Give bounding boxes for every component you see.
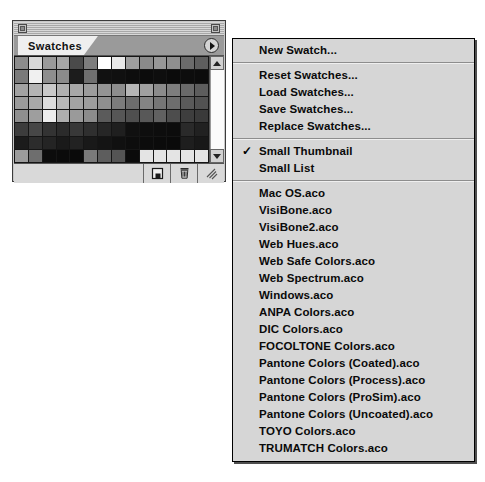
swatch-cell[interactable] <box>140 97 153 109</box>
swatch-cell[interactable] <box>154 70 167 82</box>
swatch-cell[interactable] <box>98 150 111 162</box>
menu-item[interactable]: FOCOLTONE Colors.aco <box>233 338 474 355</box>
resize-grip-icon[interactable] <box>197 164 224 183</box>
swatch-cell[interactable] <box>15 70 28 82</box>
swatch-cell[interactable] <box>154 137 167 149</box>
swatch-cell[interactable] <box>181 110 194 122</box>
swatch-cell[interactable] <box>167 137 180 149</box>
swatch-cell[interactable] <box>84 84 97 96</box>
menu-item[interactable]: Pantone Colors (Coated).aco <box>233 355 474 372</box>
swatch-cell[interactable] <box>70 150 83 162</box>
menu-item[interactable]: ✓Small Thumbnail <box>233 143 474 160</box>
swatch-cell[interactable] <box>195 57 208 69</box>
swatch-cell[interactable] <box>167 110 180 122</box>
menu-item[interactable]: Mac OS.aco <box>233 185 474 202</box>
swatch-cell[interactable] <box>43 84 56 96</box>
swatch-cell[interactable] <box>126 70 139 82</box>
swatch-cell[interactable] <box>84 123 97 135</box>
swatch-cell[interactable] <box>84 97 97 109</box>
swatch-cell[interactable] <box>15 150 28 162</box>
swatch-cell[interactable] <box>195 84 208 96</box>
swatch-cell[interactable] <box>57 70 70 82</box>
swatch-cell[interactable] <box>140 150 153 162</box>
swatch-cell[interactable] <box>15 84 28 96</box>
swatch-cell[interactable] <box>84 110 97 122</box>
swatch-cell[interactable] <box>167 70 180 82</box>
swatch-cell[interactable] <box>126 123 139 135</box>
swatch-cell[interactable] <box>43 97 56 109</box>
swatch-cell[interactable] <box>140 57 153 69</box>
swatch-cell[interactable] <box>70 110 83 122</box>
swatch-cell[interactable] <box>43 70 56 82</box>
swatch-cell[interactable] <box>57 150 70 162</box>
swatch-cell[interactable] <box>57 110 70 122</box>
swatch-cell[interactable] <box>98 110 111 122</box>
swatch-cell[interactable] <box>29 97 42 109</box>
swatch-cell[interactable] <box>154 97 167 109</box>
swatch-scrollbar[interactable] <box>209 56 224 163</box>
menu-item[interactable]: New Swatch... <box>233 42 474 59</box>
menu-item[interactable]: Reset Swatches... <box>233 67 474 84</box>
swatch-cell[interactable] <box>112 57 125 69</box>
swatch-cell[interactable] <box>195 123 208 135</box>
swatch-cell[interactable] <box>98 84 111 96</box>
swatch-cell[interactable] <box>195 70 208 82</box>
swatch-cell[interactable] <box>154 84 167 96</box>
swatch-cell[interactable] <box>112 70 125 82</box>
swatch-cell[interactable] <box>167 84 180 96</box>
swatch-cell[interactable] <box>112 150 125 162</box>
menu-item[interactable]: Pantone Colors (Uncoated).aco <box>233 406 474 423</box>
collapse-box-icon[interactable] <box>211 24 220 33</box>
menu-item[interactable]: Web Spectrum.aco <box>233 270 474 287</box>
swatch-cell[interactable] <box>43 137 56 149</box>
menu-item[interactable]: Windows.aco <box>233 287 474 304</box>
swatch-cell[interactable] <box>112 110 125 122</box>
swatch-cell[interactable] <box>126 57 139 69</box>
swatch-cell[interactable] <box>140 84 153 96</box>
swatch-cell[interactable] <box>167 57 180 69</box>
swatch-cell[interactable] <box>181 57 194 69</box>
swatch-cell[interactable] <box>195 137 208 149</box>
swatch-cell[interactable] <box>15 123 28 135</box>
menu-item[interactable]: ANPA Colors.aco <box>233 304 474 321</box>
swatch-cell[interactable] <box>167 150 180 162</box>
swatch-cell[interactable] <box>98 97 111 109</box>
menu-item[interactable]: Pantone Colors (ProSim).aco <box>233 389 474 406</box>
swatch-cell[interactable] <box>29 70 42 82</box>
swatch-grid[interactable] <box>14 56 209 163</box>
swatch-cell[interactable] <box>15 57 28 69</box>
menu-item[interactable]: Save Swatches... <box>233 101 474 118</box>
swatch-cell[interactable] <box>43 110 56 122</box>
menu-item[interactable]: TRUMATCH Colors.aco <box>233 440 474 457</box>
swatch-cell[interactable] <box>181 137 194 149</box>
menu-item[interactable]: TOYO Colors.aco <box>233 423 474 440</box>
swatch-cell[interactable] <box>15 137 28 149</box>
swatch-cell[interactable] <box>70 84 83 96</box>
swatch-cell[interactable] <box>57 137 70 149</box>
swatch-cell[interactable] <box>57 57 70 69</box>
swatch-cell[interactable] <box>84 57 97 69</box>
swatch-cell[interactable] <box>195 110 208 122</box>
swatch-cell[interactable] <box>140 137 153 149</box>
menu-item[interactable]: Web Hues.aco <box>233 236 474 253</box>
new-swatch-icon[interactable] <box>143 164 170 183</box>
swatch-cell[interactable] <box>181 150 194 162</box>
swatch-cell[interactable] <box>70 57 83 69</box>
swatch-cell[interactable] <box>29 57 42 69</box>
swatch-cell[interactable] <box>29 110 42 122</box>
swatch-cell[interactable] <box>181 97 194 109</box>
palette-menu-button[interactable] <box>204 38 219 53</box>
swatch-cell[interactable] <box>43 150 56 162</box>
swatch-cell[interactable] <box>140 70 153 82</box>
swatch-cell[interactable] <box>15 110 28 122</box>
trash-icon[interactable] <box>170 164 197 183</box>
palette-title-bar[interactable] <box>14 22 224 36</box>
swatch-cell[interactable] <box>167 97 180 109</box>
swatch-cell[interactable] <box>15 97 28 109</box>
swatch-cell[interactable] <box>112 84 125 96</box>
menu-item[interactable]: Web Safe Colors.aco <box>233 253 474 270</box>
swatch-cell[interactable] <box>98 123 111 135</box>
swatch-cell[interactable] <box>154 110 167 122</box>
tab-swatches[interactable]: Swatches <box>18 36 98 55</box>
swatch-cell[interactable] <box>112 123 125 135</box>
